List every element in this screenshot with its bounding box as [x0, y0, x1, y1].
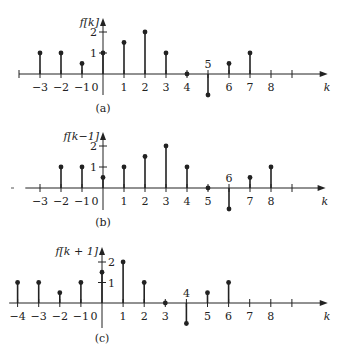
panel-caption: (a) [95, 102, 110, 115]
x-tick-label: −3 [31, 310, 47, 323]
stem-dot [36, 280, 41, 285]
stem-dot [206, 186, 211, 191]
x-axis-arrow-icon [318, 185, 326, 191]
stem-dot [142, 280, 147, 285]
x-tick-label: 4 [184, 195, 191, 208]
x-tick-label: 0 [92, 195, 99, 208]
stem-dot [206, 93, 211, 98]
y-tick-label: 2 [90, 140, 97, 153]
x-tick-label: 8 [268, 195, 275, 208]
y-axis-arrow-icon [99, 247, 105, 255]
stem-dot [226, 280, 231, 285]
y-axis-label: f[k + 1] [54, 245, 98, 258]
x-tick-label: 7 [247, 195, 254, 208]
x-tick-label: 3 [162, 310, 169, 323]
stem-dot [163, 301, 168, 306]
stem-dot [164, 51, 169, 56]
stem-dot [80, 165, 85, 170]
x-tick-label: 2 [142, 81, 149, 94]
y-tick-label: 1 [90, 161, 97, 174]
x-tick-label: 8 [268, 81, 275, 94]
y-axis-arrow-icon [100, 132, 106, 140]
x-tick-label: 1 [121, 195, 128, 208]
x-axis-label: k [324, 81, 331, 94]
panel-caption: (c) [95, 332, 110, 345]
x-tick-label: 4 [183, 287, 190, 300]
stem-dot [227, 207, 232, 212]
stem-dot [184, 321, 189, 326]
panel-caption: (b) [95, 216, 111, 229]
x-tick-label: −1 [73, 310, 89, 323]
panel-b-f-k-minus-1: kf[k−1]12−3−2−1012345678(b) [25, 130, 328, 229]
stem-dot [122, 165, 127, 170]
stem-dot [269, 165, 274, 170]
stem-dot [248, 175, 253, 180]
x-tick-label: 1 [121, 81, 128, 94]
x-tick-label: 6 [225, 310, 232, 323]
stem-dot [59, 165, 64, 170]
stem-dot [185, 72, 190, 77]
stem-dot [205, 290, 210, 295]
panel-a-f-k: kf[k]12−3−2−1012345678(a) [19, 16, 331, 115]
x-tick-label: 5 [205, 58, 212, 71]
stem-dot [143, 154, 148, 159]
stem-dot [122, 40, 127, 45]
stem-dot [164, 144, 169, 149]
stem-dot [121, 260, 126, 265]
x-axis-arrow-icon [320, 300, 328, 306]
x-tick-label: 6 [226, 81, 233, 94]
stem-dot [101, 51, 106, 56]
x-tick-label: −1 [74, 81, 90, 94]
x-tick-label: 6 [226, 172, 233, 185]
y-tick-label: 2 [108, 256, 115, 269]
x-axis-arrow-icon [320, 71, 328, 77]
x-tick-label: −3 [32, 81, 48, 94]
x-tick-label: 0 [92, 81, 99, 94]
stem-dot [248, 51, 253, 56]
stem-dot [79, 280, 84, 285]
x-tick-label: 5 [204, 310, 211, 323]
x-tick-label: −1 [74, 195, 90, 208]
x-tick-label: 2 [142, 195, 149, 208]
x-tick-label: 8 [267, 310, 274, 323]
x-tick-label: −2 [53, 195, 69, 208]
x-tick-label: 7 [247, 81, 254, 94]
x-tick-label: −2 [52, 310, 68, 323]
x-tick-label: 1 [120, 310, 127, 323]
x-tick-label: 0 [91, 310, 98, 323]
x-tick-label: 4 [184, 81, 191, 94]
y-tick-label: 2 [90, 26, 97, 39]
y-tick-label: 1 [90, 47, 97, 60]
x-tick-label: −3 [32, 195, 48, 208]
y-axis-arrow-icon [100, 18, 106, 26]
x-tick-label: −4 [9, 310, 25, 323]
stem-dot [57, 290, 62, 295]
stem-dot [143, 30, 148, 35]
stem-dot [185, 165, 190, 170]
stem-plot-figure: kf[k]12−3−2−1012345678(a) kf[k−1]12−3−2−… [0, 0, 338, 354]
x-axis-label: k [324, 310, 331, 323]
panel-c-f-k-plus-1: kf[k + 1]12−4−3−2−1012345678(c) [9, 245, 331, 345]
stem-dot [38, 51, 43, 56]
x-tick-label: 7 [246, 310, 253, 323]
stem-dot [101, 175, 106, 180]
stem-dot [59, 51, 64, 56]
x-axis-label: k [322, 195, 329, 208]
stem-dot [15, 280, 20, 285]
x-tick-label: 5 [205, 195, 212, 208]
stem-dot [100, 270, 105, 275]
stem-dot [80, 61, 85, 66]
x-tick-label: 3 [163, 195, 170, 208]
x-tick-label: 3 [163, 81, 170, 94]
x-tick-label: 2 [141, 310, 148, 323]
stem-dot [227, 61, 232, 66]
x-tick-label: −2 [53, 81, 69, 94]
y-tick-label: 1 [108, 277, 115, 290]
